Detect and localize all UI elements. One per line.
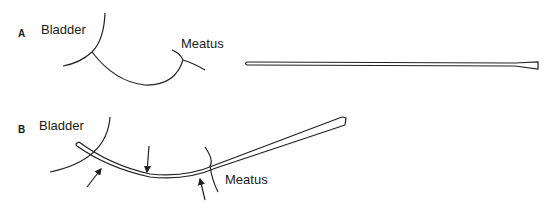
bladder-outline-a [63, 13, 105, 66]
bladder-outline-b [50, 117, 110, 172]
arrow-3-b [200, 179, 205, 200]
straight-catheter-a [246, 62, 539, 69]
arrow-2-b [147, 146, 149, 172]
diagram-drawing [0, 0, 554, 210]
arrow-1-b [87, 169, 101, 187]
meatus-outline-a [172, 50, 205, 70]
urethra-curve-a [92, 52, 183, 85]
figure: A Bladder Meatus B Bladder Meatus [0, 0, 554, 210]
